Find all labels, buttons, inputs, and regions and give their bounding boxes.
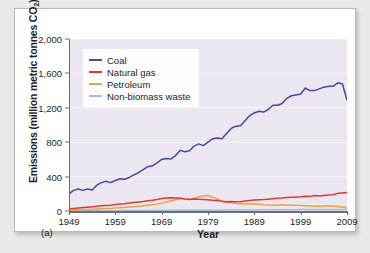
legend-item[interactable]: Non-biomass waste	[89, 90, 190, 102]
y-tick-mark	[65, 73, 69, 74]
legend-swatch-icon	[89, 71, 102, 73]
y-tick-mark	[65, 142, 69, 143]
legend-item-label: Natural gas	[107, 67, 156, 78]
x-tick-label: 1979	[197, 216, 218, 227]
chart-card: Emissions (million metric tonnes CO2) 04…	[14, 8, 356, 232]
legend-item[interactable]: Coal	[89, 54, 190, 66]
x-tick-mark	[347, 211, 348, 215]
panel-identifier: (a)	[41, 227, 53, 238]
x-tick-label: 1989	[244, 216, 265, 227]
legend-swatch-icon	[89, 83, 102, 85]
y-tick-mark	[65, 107, 69, 108]
y-tick-label: 1,600	[38, 68, 62, 79]
y-axis-label-subscript: 2	[32, 3, 41, 7]
legend-item[interactable]: Petroleum	[89, 78, 190, 90]
y-tick-label: 2,000	[38, 34, 62, 45]
y-tick-label: 400	[46, 171, 62, 182]
plot-area: 04008001,2001,6002,000 19491959196919791…	[69, 39, 347, 211]
x-tick-mark	[69, 211, 70, 215]
x-tick-mark	[115, 211, 116, 215]
x-tick-label: 2009	[336, 216, 357, 227]
y-tick-label: 0	[57, 206, 62, 217]
x-tick-label: 1969	[151, 216, 172, 227]
x-tick-mark	[254, 211, 255, 215]
y-axis-label: Emissions (million metric tonnes CO2)	[27, 3, 39, 183]
y-tick-mark	[65, 176, 69, 177]
x-axis-label: Year	[69, 228, 347, 240]
legend-swatch-icon	[89, 95, 102, 97]
legend-item-label: Coal	[107, 55, 127, 66]
x-tick-label: 1999	[290, 216, 311, 227]
figure-container: Emissions (million metric tonnes CO2) 04…	[0, 0, 370, 253]
legend-swatch-icon	[89, 59, 102, 61]
y-tick-label: 1,200	[38, 102, 62, 113]
legend-item-label: Non-biomass waste	[107, 91, 190, 102]
x-tick-mark	[208, 211, 209, 215]
x-tick-label: 1949	[58, 216, 79, 227]
series-line	[69, 196, 347, 211]
legend-item[interactable]: Natural gas	[89, 66, 190, 78]
y-tick-mark	[65, 39, 69, 40]
chart-legend: CoalNatural gasPetroleumNon-biomass wast…	[83, 49, 199, 107]
y-axis-label-text: Emissions (million metric tonnes CO	[27, 7, 39, 183]
x-tick-label: 1959	[105, 216, 126, 227]
x-tick-mark	[162, 211, 163, 215]
y-axis-line	[69, 39, 70, 211]
x-tick-mark	[301, 211, 302, 215]
y-tick-label: 800	[46, 137, 62, 148]
legend-item-label: Petroleum	[107, 79, 150, 90]
